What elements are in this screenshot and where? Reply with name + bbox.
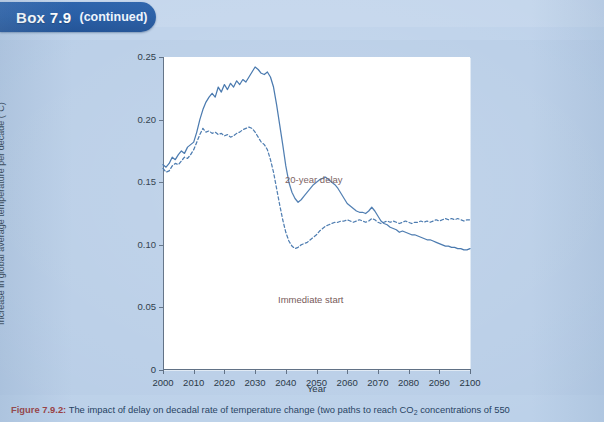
y-tick-label: 0.25 [138, 51, 157, 62]
x-tick [163, 369, 164, 374]
series-line-immediate [163, 127, 470, 248]
y-tick [159, 307, 164, 308]
caption-text-part1: The impact of delay on decadal rate of t… [69, 404, 414, 415]
x-tick [194, 369, 195, 374]
x-tick [378, 369, 379, 374]
box-continued-label: (continued) [79, 10, 147, 24]
y-tick-label: 0.05 [138, 301, 157, 312]
y-tick-label: 0.15 [138, 176, 157, 187]
box-header-tab: Box 7.9 (continued) [0, 2, 156, 32]
caption-text-part2: concentrations of 550 [418, 404, 510, 415]
series-lines [163, 57, 470, 370]
y-axis-label: Increase in global average temperature p… [0, 57, 10, 370]
caption-figure-number: Figure 7.9.2: [11, 404, 66, 415]
x-tick [347, 369, 348, 374]
x-tick [470, 369, 471, 374]
y-tick [159, 182, 164, 183]
x-tick [317, 369, 318, 374]
y-tick-label: 0.20 [138, 114, 157, 125]
figure-caption: Figure 7.9.2: The impact of delay on dec… [0, 399, 604, 422]
series-annotation-delay: 20-year delay [285, 174, 343, 185]
figure-7-9-2: Increase in global average temperature p… [0, 40, 604, 395]
x-tick [409, 369, 410, 374]
y-tick [159, 245, 164, 246]
x-tick [224, 369, 225, 374]
y-tick [159, 120, 164, 121]
x-tick [439, 369, 440, 374]
y-tick-label: 0 [151, 364, 156, 375]
x-axis-label: Year [163, 383, 470, 394]
y-tick [159, 57, 164, 58]
box-title: Box 7.9 [16, 9, 71, 26]
series-line-delay [163, 67, 470, 250]
x-tick [286, 369, 287, 374]
series-annotation-immediate: Immediate start [278, 294, 343, 305]
y-tick-label: 0.10 [138, 239, 157, 250]
x-tick [255, 369, 256, 374]
plot-area [163, 57, 470, 370]
